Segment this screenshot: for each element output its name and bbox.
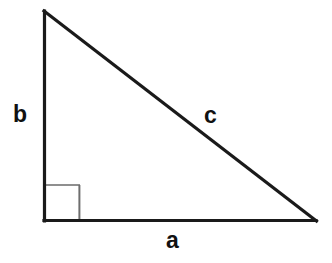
side-label-a: a (166, 229, 179, 252)
triangle-hypotenuse (44, 11, 317, 221)
right-angle-marker-icon (44, 185, 80, 221)
right-triangle-figure (0, 0, 332, 263)
side-label-c: c (204, 104, 217, 127)
diagram-canvas: b c a (0, 0, 332, 263)
side-label-b: b (13, 103, 27, 126)
